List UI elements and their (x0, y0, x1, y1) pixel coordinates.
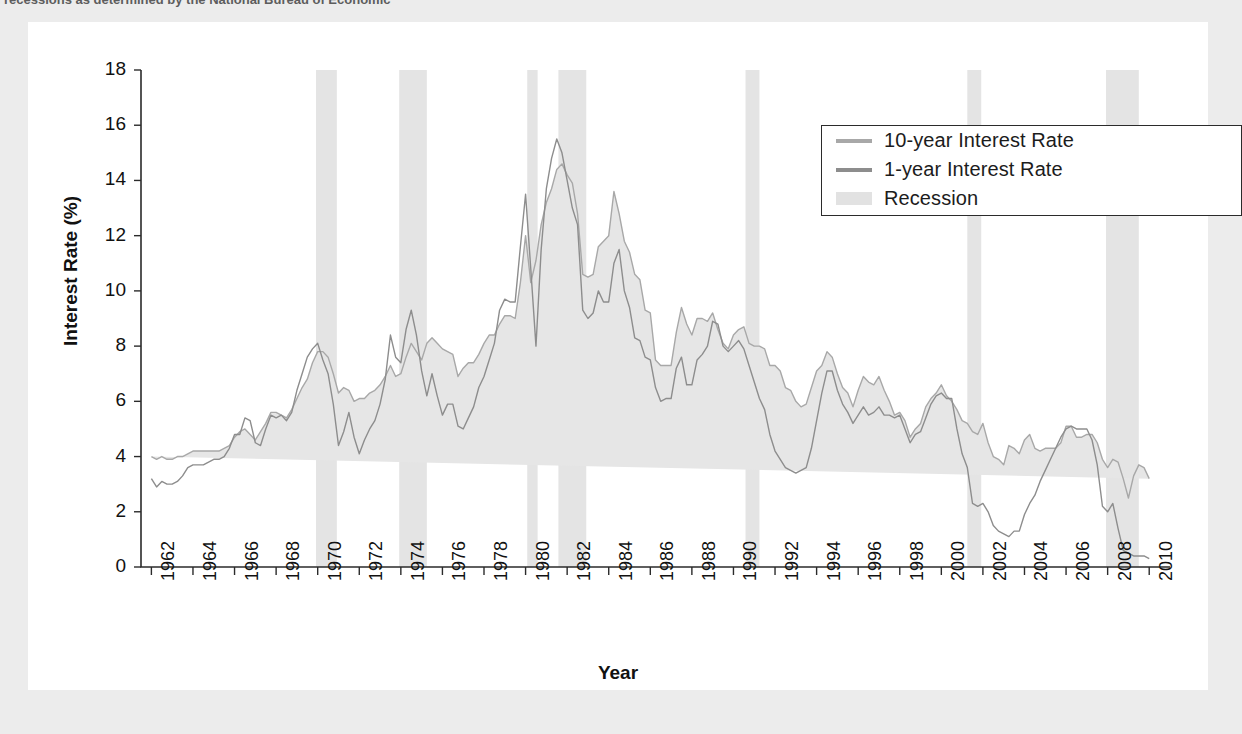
x-tick-label: 2002 (990, 541, 1011, 581)
x-tick-label: 2004 (1031, 541, 1052, 581)
x-tick-label: 1980 (533, 541, 554, 581)
x-tick-label: 1992 (782, 541, 803, 581)
x-tick-label: 1976 (449, 541, 470, 581)
legend-item-10y[interactable]: 10-year Interest Rate (822, 126, 1241, 155)
x-tick-label: 1986 (657, 541, 678, 581)
legend-label-1-year: 1-year Interest Rate (884, 158, 1063, 181)
x-tick-label: 1970 (325, 541, 346, 581)
x-tick-label: 1974 (408, 541, 429, 581)
y-tick-label: 18 (86, 58, 126, 80)
x-tick-label: 1962 (158, 541, 179, 581)
x-tick-label: 1972 (366, 541, 387, 581)
x-tick-label: 1990 (740, 541, 761, 581)
x-tick-label: 2006 (1073, 541, 1094, 581)
figure-caption-text: recessions as determined by the National… (4, 0, 391, 7)
x-tick-label: 2008 (1115, 541, 1136, 581)
y-tick-label: 6 (86, 389, 126, 411)
interest-rate-line-chart (28, 22, 1208, 690)
chart-panel: Interest Rate (%) Year 024681012141618 1… (28, 22, 1208, 690)
figure-caption: recessions as determined by the National… (0, 0, 1236, 16)
x-tick-label: 1988 (699, 541, 720, 581)
recession-band (316, 70, 337, 567)
legend-label-10-year: 10-year Interest Rate (884, 129, 1074, 152)
y-tick-label: 16 (86, 113, 126, 135)
legend-item-1y[interactable]: 1-year Interest Rate (822, 155, 1241, 184)
y-axis-title: Interest Rate (%) (60, 166, 82, 376)
recession-band (746, 70, 760, 567)
y-tick-label: 8 (86, 334, 126, 356)
x-tick-label: 1982 (574, 541, 595, 581)
y-tick-label: 10 (86, 279, 126, 301)
legend-swatch-recession-band (836, 192, 872, 205)
x-tick-label: 1964 (200, 541, 221, 581)
x-tick-label: 1978 (491, 541, 512, 581)
y-tick-label: 14 (86, 168, 126, 190)
y-tick-label: 0 (86, 555, 126, 577)
x-tick-label: 2010 (1156, 541, 1177, 581)
legend-swatch-10-year-line (836, 139, 872, 143)
x-tick-label: 1966 (242, 541, 263, 581)
x-tick-label: 1968 (283, 541, 304, 581)
y-tick-label: 4 (86, 445, 126, 467)
x-tick-label: 1994 (824, 541, 845, 581)
legend-item-recession[interactable]: Recession (822, 184, 1241, 213)
legend-label-recession: Recession (884, 187, 978, 210)
legend-swatch-1-year-line (836, 168, 872, 172)
x-tick-label: 1998 (907, 541, 928, 581)
x-tick-label: 1996 (865, 541, 886, 581)
x-tick-label: 2000 (948, 541, 969, 581)
x-axis-title: Year (28, 662, 1208, 684)
y-tick-label: 12 (86, 224, 126, 246)
y-tick-label: 2 (86, 500, 126, 522)
x-tick-label: 1984 (616, 541, 637, 581)
chart-legend: 10-year Interest Rate 1-year Interest Ra… (821, 125, 1242, 216)
